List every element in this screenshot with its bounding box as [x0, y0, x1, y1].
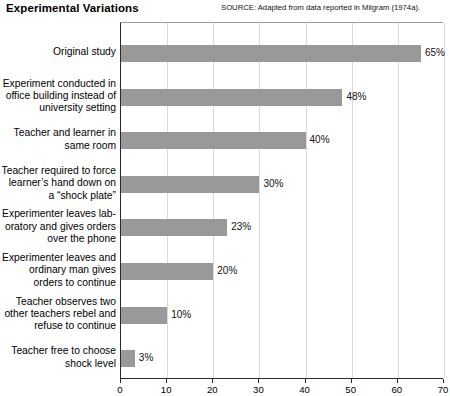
category-label-line: Teacher required to force [0, 165, 116, 177]
x-axis: 010203040506070 [0, 380, 450, 396]
x-axis-tick-mark [258, 379, 259, 383]
category-label: Experimenter leaves lab-oratory and give… [0, 208, 116, 245]
bar-value-label: 40% [310, 131, 330, 148]
x-axis-tick-label: 20 [207, 384, 218, 395]
category-label-line: orders to continue [0, 277, 116, 289]
category-label-line: refuse to continue [0, 320, 116, 332]
category-label: Teacher and learner insame room [0, 127, 116, 152]
category-label-line: Original study [0, 46, 116, 58]
category-label-line: Experimenter leaves and [0, 252, 116, 264]
gridline [167, 23, 168, 378]
x-axis-tick-label: 40 [299, 384, 310, 395]
gridline [444, 23, 445, 378]
x-axis-tick-label: 10 [161, 384, 172, 395]
category-label: Experiment conducted inoffice building i… [0, 78, 116, 115]
category-label: Teacher required to forcelearner’s hand … [0, 165, 116, 202]
page-title: Experimental Variations [6, 2, 139, 14]
x-axis-tick-label: 0 [117, 384, 122, 395]
category-label-line: a “shock plate” [0, 190, 116, 202]
bar-value-label: 10% [171, 306, 191, 323]
x-axis-tick-mark [443, 379, 444, 383]
category-label-line: shock level [0, 358, 116, 370]
x-axis-tick-mark [166, 379, 167, 383]
bar [121, 219, 227, 236]
x-axis-tick-label: 70 [438, 384, 449, 395]
bar [121, 307, 167, 324]
category-label: Teacher free to chooseshock level [0, 345, 116, 370]
bar [121, 350, 135, 367]
category-label: Experimenter leaves andordinary man give… [0, 252, 116, 289]
bar [121, 132, 306, 149]
chart-header: Experimental Variations SOURCE: Adapted … [0, 0, 450, 22]
gridline [306, 23, 307, 378]
x-axis-tick-label: 50 [345, 384, 356, 395]
x-axis-tick-mark [397, 379, 398, 383]
category-label: Teacher observes twoother teachers rebel… [0, 296, 116, 333]
category-label-line: learner’s hand down on [0, 177, 116, 189]
category-label-line: ordinary man gives [0, 264, 116, 276]
category-label-line: oratory and gives orders [0, 221, 116, 233]
bar-value-label: 65% [425, 44, 445, 61]
bar [121, 176, 259, 193]
category-label-line: Teacher free to choose [0, 345, 116, 357]
bar [121, 263, 213, 280]
bar-value-label: 23% [231, 218, 251, 235]
category-label-line: Teacher and learner in [0, 127, 116, 139]
gridline [259, 23, 260, 378]
x-axis-tick-mark [351, 379, 352, 383]
category-label-line: other teachers rebel and [0, 308, 116, 320]
gridline [213, 23, 214, 378]
x-axis-tick-label: 30 [253, 384, 264, 395]
category-label-line: over the phone [0, 233, 116, 245]
x-axis-tick-mark [305, 379, 306, 383]
category-label-line: same room [0, 140, 116, 152]
category-label-line: Experiment conducted in [0, 78, 116, 90]
bar-value-label: 3% [139, 349, 153, 366]
bar-value-label: 20% [217, 262, 237, 279]
x-axis-tick-mark [120, 379, 121, 383]
category-label-line: Experimenter leaves lab- [0, 208, 116, 220]
gridline [352, 23, 353, 378]
plot-area [120, 22, 443, 379]
x-axis-tick-mark [212, 379, 213, 383]
category-label-line: Teacher observes two [0, 296, 116, 308]
bar [121, 89, 342, 106]
gridline [398, 23, 399, 378]
bar-chart: Original studyExperiment conducted inoff… [0, 20, 450, 396]
bar-value-label: 48% [346, 88, 366, 105]
category-label: Original study [0, 46, 116, 58]
x-axis-tick-label: 60 [392, 384, 403, 395]
category-label-line: university setting [0, 102, 116, 114]
bar-value-label: 30% [263, 175, 283, 192]
category-label-line: office building instead of [0, 90, 116, 102]
bar [121, 45, 421, 62]
source-note: SOURCE: Adapted from data reported in Mi… [221, 3, 420, 12]
